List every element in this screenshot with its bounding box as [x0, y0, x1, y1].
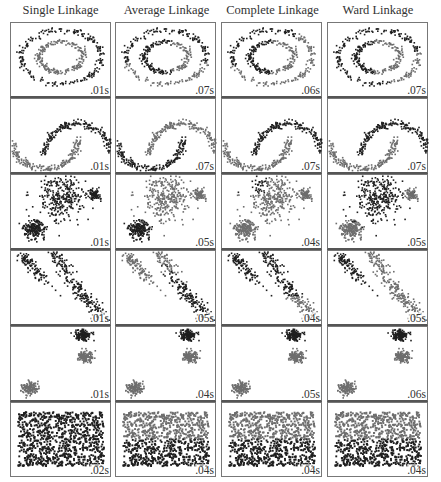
runtime-label: .05s — [195, 236, 214, 248]
runtime-label: .01s — [90, 236, 109, 248]
plot-cell-anisotropic-average: .05s — [115, 250, 216, 326]
plot-cell-no-structure-single: .02s — [10, 402, 111, 477]
runtime-label: .05s — [407, 312, 426, 324]
column-header-ward: Ward Linkage — [327, 3, 429, 19]
plot-cell-noisy-moons-complete: .07s — [221, 98, 322, 174]
runtime-label: .05s — [301, 388, 320, 400]
plot-cell-noisy-circles-complete: .06s — [221, 22, 322, 98]
runtime-label: .01s — [90, 84, 109, 96]
plot-cell-noisy-moons-single: .01s — [10, 98, 111, 174]
plot-cell-blobs-complete: .05s — [221, 326, 322, 402]
runtime-label: .07s — [195, 84, 214, 96]
column-complete: .06s.07s.04s.04s.05s.04s — [221, 22, 322, 477]
plot-cell-no-structure-complete: .04s — [221, 402, 322, 477]
column-average: .07s.07s.05s.05s.04s.04s — [115, 22, 216, 477]
runtime-label: .02s — [90, 464, 109, 476]
plot-cell-noisy-circles-single: .01s — [10, 22, 111, 98]
plot-cell-blobs-ward: .06s — [327, 326, 428, 402]
plot-cell-blobs-single: .01s — [10, 326, 111, 402]
runtime-label: .06s — [301, 84, 320, 96]
plot-cell-noisy-moons-average: .07s — [115, 98, 216, 174]
plot-cell-varied-blobs-complete: .04s — [221, 174, 322, 250]
plot-cell-noisy-circles-average: .07s — [115, 22, 216, 98]
runtime-label: .07s — [301, 160, 320, 172]
plot-cell-no-structure-average: .04s — [115, 402, 216, 477]
column-single: .01s.01s.01s.01s.01s.02s — [10, 22, 111, 477]
runtime-label: .04s — [195, 388, 214, 400]
runtime-label: .05s — [407, 236, 426, 248]
column-header-complete: Complete Linkage — [221, 3, 324, 19]
runtime-label: .04s — [301, 236, 320, 248]
runtime-label: .01s — [90, 312, 109, 324]
column-header-single: Single Linkage — [10, 3, 111, 19]
runtime-label: .01s — [90, 388, 109, 400]
runtime-label: .05s — [195, 312, 214, 324]
runtime-label: .07s — [195, 160, 214, 172]
runtime-label: .06s — [407, 388, 426, 400]
runtime-label: .07s — [407, 84, 426, 96]
column-ward: .07s.07s.05s.05s.06s.04s — [327, 22, 428, 477]
plot-cell-varied-blobs-single: .01s — [10, 174, 111, 250]
runtime-label: .04s — [301, 312, 320, 324]
runtime-label: .07s — [407, 160, 426, 172]
plot-cell-noisy-circles-ward: .07s — [327, 22, 428, 98]
plot-cell-no-structure-ward: .04s — [327, 402, 428, 477]
plot-cell-anisotropic-single: .01s — [10, 250, 111, 326]
plot-cell-noisy-moons-ward: .07s — [327, 98, 428, 174]
column-header-average: Average Linkage — [115, 3, 218, 19]
plot-cell-varied-blobs-ward: .05s — [327, 174, 428, 250]
plot-cell-varied-blobs-average: .05s — [115, 174, 216, 250]
plot-cell-anisotropic-complete: .04s — [221, 250, 322, 326]
runtime-label: .01s — [90, 160, 109, 172]
runtime-label: .04s — [195, 464, 214, 476]
runtime-label: .04s — [407, 464, 426, 476]
plot-cell-blobs-average: .04s — [115, 326, 216, 402]
runtime-label: .04s — [301, 464, 320, 476]
plot-cell-anisotropic-ward: .05s — [327, 250, 428, 326]
